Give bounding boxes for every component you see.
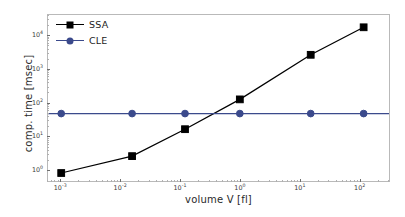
legend-item-ssa: SSA: [56, 18, 108, 31]
x-tick-minor: [276, 180, 277, 182]
x-tick-minor: [357, 180, 358, 182]
y-tick-minor: [47, 15, 49, 16]
x-tick-minor: [388, 180, 389, 182]
data-point-circle: [360, 110, 367, 117]
x-tick-minor: [227, 180, 228, 182]
y-tick-minor: [47, 37, 49, 38]
x-tick-minor: [111, 180, 112, 182]
x-tick: [180, 179, 181, 182]
x-axis-title: volume V [fl]: [47, 194, 390, 205]
x-tick-minor: [346, 180, 347, 182]
x-tick-minor: [117, 180, 118, 182]
legend-label-cle: CLE: [89, 35, 108, 46]
x-tick: [360, 179, 361, 182]
x-tick-minor: [231, 180, 232, 182]
data-point-square: [58, 170, 65, 177]
y-tick-minor: [47, 160, 49, 161]
x-tick-minor: [378, 180, 379, 182]
x-tick-minor: [102, 180, 103, 182]
figure: 10-310-210-1100101102 100101102103104 vo…: [0, 0, 405, 217]
y-tick-minor: [47, 53, 49, 54]
x-tick-minor: [177, 180, 178, 182]
y-axis-title: comp. time [msec]: [23, 19, 34, 189]
x-tick-minor: [291, 180, 292, 182]
x-tick-minor: [237, 180, 238, 182]
x-tick-minor: [354, 180, 355, 182]
x-tick-minor: [171, 180, 172, 182]
x-tick-minor: [58, 180, 59, 182]
y-tick: [47, 170, 50, 171]
x-tick-minor: [318, 180, 319, 182]
legend-label-ssa: SSA: [89, 19, 108, 30]
y-tick-minor: [47, 45, 49, 46]
y-tick-minor: [47, 116, 49, 117]
data-point-circle: [236, 110, 243, 117]
y-tick-minor: [47, 40, 49, 41]
x-tick-minor: [96, 180, 97, 182]
x-tick-minor: [222, 180, 223, 182]
y-tick-minor: [47, 113, 49, 114]
x-tick-minor: [350, 180, 351, 182]
data-point-square: [236, 96, 243, 103]
y-tick-minor: [47, 92, 49, 93]
x-tick-minor: [282, 180, 283, 182]
x-tick-minor: [51, 180, 52, 182]
y-tick-minor: [47, 43, 49, 44]
square-marker-icon: [67, 21, 74, 28]
y-tick-minor: [47, 70, 49, 71]
data-point-circle: [58, 110, 65, 117]
x-tick-minor: [258, 180, 259, 182]
x-tick-minor: [174, 180, 175, 182]
x-tick: [120, 179, 121, 182]
x-tick-label: 10-1: [173, 184, 186, 192]
x-tick-minor: [297, 180, 298, 182]
x-tick: [60, 179, 61, 182]
x-tick-label: 102: [354, 184, 365, 192]
y-tick-minor: [47, 108, 49, 109]
y-tick-minor: [47, 38, 49, 39]
x-tick-label: 100: [234, 184, 245, 192]
y-tick-minor: [47, 25, 49, 26]
x-tick-label: 10-3: [54, 184, 67, 192]
x-tick-minor: [54, 180, 55, 182]
data-point-circle: [307, 110, 314, 117]
x-tick-minor: [209, 180, 210, 182]
y-tick-minor: [47, 120, 49, 121]
x-tick: [300, 179, 301, 182]
y-tick-minor: [47, 140, 49, 141]
y-tick-minor: [47, 106, 49, 107]
y-tick-minor: [47, 142, 49, 143]
legend-swatch-cle: [56, 35, 84, 46]
x-tick-minor: [162, 180, 163, 182]
y-tick-minor: [47, 79, 49, 80]
data-point-square: [129, 153, 136, 160]
y-tick-minor: [47, 19, 49, 20]
y-tick-minor: [47, 126, 49, 127]
x-tick-minor: [138, 180, 139, 182]
y-tick-minor: [47, 59, 49, 60]
x-tick-minor: [47, 180, 48, 182]
x-tick-minor: [198, 180, 199, 182]
y-tick-minor: [47, 49, 49, 50]
legend-swatch-ssa: [56, 19, 84, 30]
y-tick-minor: [47, 150, 49, 151]
y-tick-minor: [47, 138, 49, 139]
x-tick-minor: [216, 180, 217, 182]
x-tick-minor: [114, 180, 115, 182]
y-tick-minor: [47, 110, 49, 111]
x-tick: [240, 179, 241, 182]
y-tick-minor: [47, 82, 49, 83]
y-tick-minor: [47, 74, 49, 75]
y-tick-minor: [47, 154, 49, 155]
data-point-square: [307, 51, 314, 58]
x-tick-minor: [269, 180, 270, 182]
x-tick-minor: [328, 180, 329, 182]
data-point-square: [182, 126, 189, 133]
data-point-circle: [182, 110, 189, 117]
x-tick-minor: [149, 180, 150, 182]
y-tick-minor: [47, 87, 49, 88]
legend-item-cle: CLE: [56, 34, 108, 47]
x-tick-minor: [342, 180, 343, 182]
x-tick-minor: [78, 180, 79, 182]
circle-marker-icon: [67, 37, 74, 44]
